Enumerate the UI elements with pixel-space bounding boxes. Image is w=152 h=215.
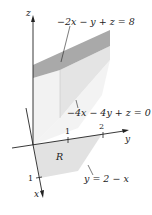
- z-axis-arrow-icon: [31, 15, 35, 22]
- bottom-plane-equation: −4x − 4y + z = 0: [67, 107, 151, 118]
- x-axis-label: x: [34, 189, 39, 199]
- y-tick-2-label: 2: [99, 122, 104, 131]
- y-axis-arrow-icon: [122, 129, 129, 133]
- region-label: R: [55, 151, 63, 162]
- x-axis-arrow-icon: [40, 190, 44, 198]
- solid-region-figure: z y x 1 1 2 −2x − y + z = 8 −4x − 4y + z…: [0, 0, 152, 215]
- z-axis-label: z: [25, 8, 31, 18]
- top-plane-equation: −2x − y + z = 8: [57, 16, 135, 27]
- y-axis-label: y: [124, 134, 131, 144]
- y-tick-1-label: 1: [65, 127, 70, 136]
- x-tick-1: [36, 177, 42, 178]
- boundary-equation: y = 2 − x: [83, 173, 129, 184]
- x-tick-1-label: 1: [28, 174, 33, 183]
